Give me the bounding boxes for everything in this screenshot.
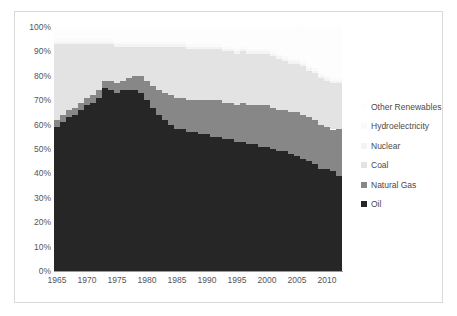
y-axis-tick-label: 10% [15, 243, 51, 252]
x-axis-tick-label: 1985 [168, 276, 187, 285]
legend-item[interactable]: Coal [361, 156, 456, 176]
x-axis-tick-label: 1980 [138, 276, 157, 285]
y-axis-tick-label: 20% [15, 218, 51, 227]
y-axis-tick-label: 30% [15, 194, 51, 203]
x-axis-line [54, 271, 343, 272]
area-segment [336, 176, 342, 271]
legend-item-label: Hydroelectricity [371, 122, 429, 131]
area-segment [336, 129, 342, 175]
legend-item[interactable]: Oil [361, 195, 456, 215]
legend-item-label: Natural Gas [371, 181, 416, 190]
legend-item-label: Coal [371, 161, 388, 170]
x-axis-tick-label: 2000 [258, 276, 277, 285]
y-axis-tick-label: 60% [15, 121, 51, 130]
x-axis-tick-label: 1965 [48, 276, 67, 285]
legend-item[interactable]: Natural Gas [361, 175, 456, 195]
y-axis-tick-label: 100% [15, 23, 51, 32]
area-column [336, 27, 342, 271]
x-axis-tick-label: 2005 [288, 276, 307, 285]
legend-swatch-icon [361, 201, 367, 207]
legend-swatch-icon [361, 123, 367, 129]
legend-item-label: Nuclear [371, 142, 400, 151]
legend-swatch-icon [361, 182, 367, 188]
y-axis-tick-label: 50% [15, 145, 51, 154]
legend-item-label: Other Renewables [371, 103, 441, 112]
area-segment [336, 78, 342, 80]
x-axis-tick-label: 1975 [108, 276, 127, 285]
legend-item[interactable]: Hydroelectricity [361, 117, 456, 137]
x-axis-labels: 1965197019751980198519901995200020052010 [54, 276, 342, 290]
x-axis-tick-label: 1990 [198, 276, 217, 285]
chart-frame: 0%10%20%30%40%50%60%70%80%90%100% 196519… [14, 11, 443, 303]
legend-item-label: Oil [371, 200, 381, 209]
legend-item[interactable]: Other Renewables [361, 97, 456, 117]
legend-swatch-icon [361, 162, 367, 168]
stacked-area-series [54, 27, 342, 271]
y-axis-tick-label: 80% [15, 72, 51, 81]
legend-item[interactable]: Nuclear [361, 136, 456, 156]
plot-area [54, 27, 342, 271]
y-axis-tick-label: 0% [15, 267, 51, 276]
x-axis-tick-label: 1995 [228, 276, 247, 285]
y-axis-tick-label: 40% [15, 169, 51, 178]
y-axis-tick-label: 70% [15, 96, 51, 105]
area-segment [336, 27, 342, 78]
y-axis-tick-label: 90% [15, 47, 51, 56]
x-axis-tick-label: 2010 [318, 276, 337, 285]
legend-swatch-icon [361, 104, 367, 110]
area-segment [336, 81, 342, 83]
x-axis-tick-label: 1970 [78, 276, 97, 285]
legend-swatch-icon [361, 143, 367, 149]
area-segment [336, 83, 342, 129]
chart-legend: Other RenewablesHydroelectricityNuclearC… [361, 97, 456, 214]
y-axis-labels: 0%10%20%30%40%50%60%70%80%90%100% [15, 12, 51, 304]
